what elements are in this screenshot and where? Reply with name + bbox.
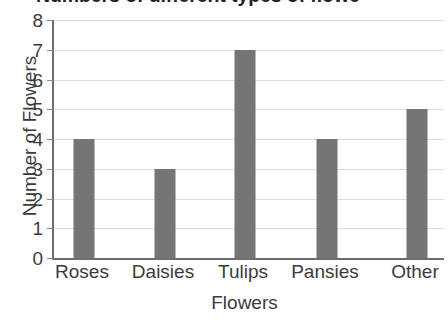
x-tick-label: Pansies <box>291 262 359 281</box>
y-tick-mark <box>47 169 53 170</box>
gridline <box>54 20 444 21</box>
y-tick-mark <box>47 199 53 200</box>
y-tick-label: 2 <box>32 189 43 208</box>
y-tick-label: 8 <box>32 11 43 30</box>
y-tick-label: 4 <box>32 130 43 149</box>
chart-title: Numbers of different types of flowe <box>36 0 448 6</box>
x-tick-label: Tulips <box>218 262 268 281</box>
bar <box>235 50 256 258</box>
y-tick-mark <box>47 109 53 110</box>
y-tick-label: 0 <box>32 249 43 268</box>
x-tick-label: Other <box>391 262 439 281</box>
y-tick-label: 1 <box>32 219 43 238</box>
bar <box>407 109 428 258</box>
x-tick-label: Daisies <box>132 262 194 281</box>
y-tick-mark <box>47 20 53 21</box>
y-tick-mark <box>47 80 53 81</box>
bar <box>155 169 176 258</box>
plot-area: 012345678 <box>52 20 444 260</box>
y-tick-mark <box>47 228 53 229</box>
x-tick-label: Roses <box>55 262 109 281</box>
y-tick-mark <box>47 139 53 140</box>
bar <box>74 139 95 258</box>
x-axis-title: Flowers <box>52 292 437 314</box>
y-tick-mark <box>47 258 53 259</box>
bar <box>317 139 338 258</box>
y-tick-mark <box>47 50 53 51</box>
y-tick-label: 3 <box>32 159 43 178</box>
y-tick-label: 7 <box>32 40 43 59</box>
y-tick-label: 5 <box>32 100 43 119</box>
y-tick-label: 6 <box>32 70 43 89</box>
